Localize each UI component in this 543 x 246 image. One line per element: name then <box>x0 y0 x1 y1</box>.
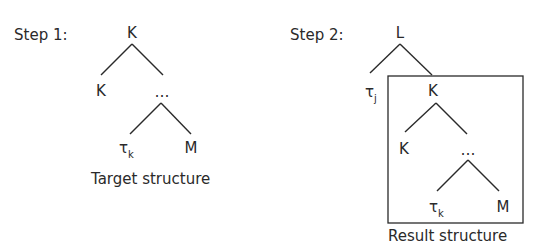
step2-edge-ellipsis-left <box>437 160 468 191</box>
step2-m-node: M <box>497 198 510 216</box>
step2-label: Step 2: <box>290 26 344 44</box>
step2-box-left-node: K <box>399 140 410 158</box>
step1-label: Step 1: <box>14 26 68 44</box>
step1-edge-ellipsis-right <box>161 103 191 134</box>
step2-edge-root-right <box>400 44 432 75</box>
step2-box-ellipsis-node: … <box>461 141 476 159</box>
step2-tau-j-node: τj <box>365 83 377 104</box>
step2-root-node: L <box>396 24 405 42</box>
step2-edge-box-root-left <box>405 103 436 132</box>
step2-box-root-node: K <box>428 82 439 100</box>
step2-edge-box-root-right <box>436 103 467 134</box>
step1-m-node: M <box>185 139 198 157</box>
step1-left-node: K <box>96 82 107 100</box>
step1-caption: Target structure <box>90 170 210 188</box>
step1-edge-root-right <box>132 44 163 75</box>
step1-edge-ellipsis-left <box>130 103 161 134</box>
step2-caption: Result structure <box>388 227 507 245</box>
step1-root-node: K <box>127 24 138 42</box>
step1-tau-k-node: τk <box>119 139 134 160</box>
diagram-canvas: Step 1: K K … τk M Target structure Step… <box>0 0 543 246</box>
step2-group: Step 2: L τj K K … τk M Result structure <box>290 24 523 245</box>
step1-ellipsis-node: … <box>155 83 170 101</box>
step2-edge-root-left <box>370 44 400 73</box>
step2-edge-ellipsis-right <box>468 160 499 191</box>
step1-group: Step 1: K K … τk M Target structure <box>14 24 210 188</box>
step2-tau-k-node: τk <box>429 198 444 219</box>
step1-edge-root-left <box>101 44 132 75</box>
